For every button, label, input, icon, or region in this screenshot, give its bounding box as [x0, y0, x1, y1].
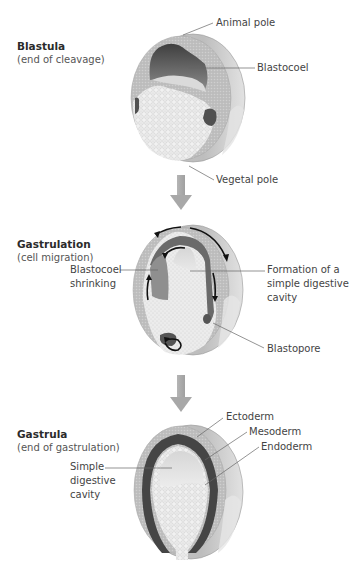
label-endoderm: Endoderm: [261, 441, 312, 454]
label-cavity-line3: cavity: [70, 489, 100, 502]
label-blastocoel: Blastocoel: [257, 62, 309, 75]
leader-vegetal-pole: [189, 166, 214, 180]
stage-subtitle-gastrulation: (cell migration): [17, 252, 93, 264]
label-blastopore: Blastopore: [267, 343, 321, 356]
stage-subtitle-blastula: (end of cleavage): [17, 54, 105, 66]
label-ectoderm: Ectoderm: [226, 411, 274, 424]
label-formation-line2: simple digestive: [267, 278, 349, 291]
flow-arrow-1: [170, 175, 192, 210]
label-animal-pole: Animal pole: [216, 17, 275, 30]
stage-title-blastula: Blastula: [17, 40, 65, 53]
stage-title-gastrula: Gastrula: [17, 428, 67, 441]
label-cavity-line2: digestive: [70, 475, 116, 488]
label-vegetal-pole: Vegetal pole: [216, 174, 278, 187]
label-cavity-line1: Simple: [70, 461, 104, 474]
flow-arrow-2: [170, 375, 192, 412]
stage-title-gastrulation: Gastrulation: [17, 238, 91, 251]
gastrulation-embryo: [133, 225, 243, 355]
label-formation-line1: Formation of a: [267, 264, 340, 277]
blastula-embryo: [131, 34, 245, 162]
label-blastocoel-shrinking-line1: Blastocoel: [70, 264, 122, 277]
label-mesoderm: Mesoderm: [249, 426, 301, 439]
leader-animal-pole: [183, 23, 213, 35]
label-formation-line3: cavity: [267, 292, 297, 305]
stage-subtitle-gastrula: (end of gastrulation): [17, 442, 120, 454]
blastopore: [203, 314, 211, 324]
label-blastocoel-shrinking-line2: shrinking: [70, 278, 116, 291]
